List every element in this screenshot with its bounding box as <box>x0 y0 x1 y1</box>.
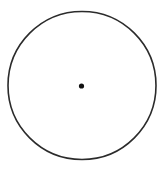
center-point <box>79 83 84 88</box>
diagram-canvas <box>0 0 164 170</box>
